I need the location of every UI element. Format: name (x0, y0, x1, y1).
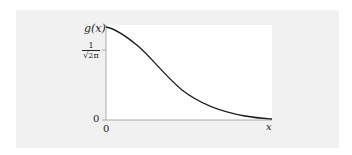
y-axis-label: g(x) (84, 22, 106, 35)
frac-numerator: 1 (80, 41, 102, 50)
x-axis-label: x (266, 121, 272, 132)
frac-denominator: √2π (80, 51, 102, 60)
chart-svg (0, 0, 352, 155)
x-tick-zero-label: 0 (103, 123, 109, 134)
curve-g (106, 27, 272, 119)
y-tick-zero-label: 0 (93, 113, 99, 124)
y-tick-frac-label: 1 √2π (80, 41, 102, 60)
